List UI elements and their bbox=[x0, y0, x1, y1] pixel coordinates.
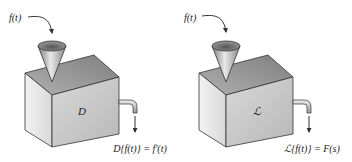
output-label: D{f(t)} = f′(t) bbox=[112, 143, 167, 155]
operator-label: D bbox=[77, 105, 86, 117]
input-label: f(t) bbox=[184, 12, 197, 24]
funnel-rim bbox=[212, 41, 240, 51]
funnel-rim bbox=[38, 41, 66, 51]
input-arrow-icon bbox=[28, 16, 52, 33]
spout-icon bbox=[119, 100, 137, 113]
operator-label: ℒ bbox=[253, 105, 262, 117]
spout-icon bbox=[293, 100, 311, 113]
derivative-machine: f(t) D D{f(t)} = f′(t) bbox=[9, 12, 167, 155]
input-label: f(t) bbox=[9, 12, 22, 24]
input-arrow-icon bbox=[202, 15, 226, 32]
diagram-canvas: f(t) D D{f(t)} = f′(t) f(t) ℒ ℒ{f(t)} = … bbox=[0, 0, 352, 162]
output-label: ℒ{f(t)} = F(s) bbox=[284, 143, 340, 155]
laplace-machine: f(t) ℒ ℒ{f(t)} = F(s) bbox=[184, 12, 340, 155]
